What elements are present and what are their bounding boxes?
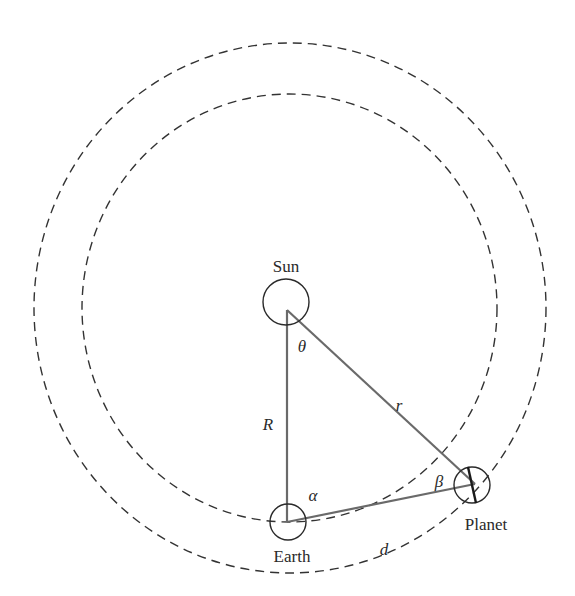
angle-alpha-label: α — [309, 486, 319, 505]
angle-theta-label: θ — [298, 337, 306, 356]
planet-orbit-outer — [34, 43, 546, 573]
earth-orbit-inner — [82, 94, 497, 522]
side-d-label: d — [380, 540, 389, 559]
side-r-sun-planet — [287, 310, 475, 484]
side-R-label: R — [262, 415, 274, 434]
side-r-label: r — [396, 396, 403, 415]
orbital-geometry-diagram: Sun Earth Planet R r d θ α β — [0, 0, 575, 596]
angle-beta-label: β — [434, 472, 444, 491]
sun-label: Sun — [273, 257, 300, 276]
planet-icon — [454, 467, 490, 503]
earth-label: Earth — [274, 547, 311, 566]
planet-label: Planet — [465, 515, 508, 534]
